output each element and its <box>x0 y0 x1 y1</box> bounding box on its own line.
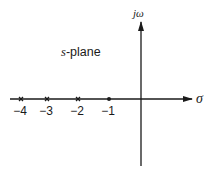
imaginary-axis-label: jω <box>133 8 144 19</box>
plane-text: -plane <box>66 45 101 59</box>
s-plane-diagram <box>0 0 213 173</box>
tick-label-minus-4: −4 <box>13 105 27 117</box>
real-axis-label: σ <box>196 92 203 106</box>
s-plane-label: s-plane <box>61 46 101 59</box>
tick-label-minus-2: −2 <box>70 105 84 117</box>
tick-label-minus-3: −3 <box>39 105 53 117</box>
tick-label-minus-1: −1 <box>101 105 115 117</box>
zero-marker-minus-1 <box>107 97 111 101</box>
